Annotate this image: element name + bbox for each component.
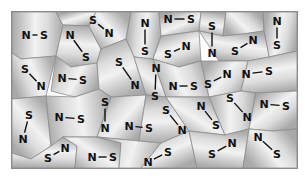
bond-line bbox=[270, 105, 279, 106]
south-pole-label: S bbox=[40, 30, 48, 41]
north-pole-label: N bbox=[104, 28, 113, 39]
south-pole-label: S bbox=[101, 97, 109, 108]
south-pole-label: S bbox=[231, 46, 239, 57]
south-pole-label: S bbox=[226, 93, 234, 104]
bond-line bbox=[98, 24, 104, 29]
north-pole-label: N bbox=[87, 152, 96, 163]
north-pole-label: N bbox=[100, 123, 109, 134]
south-pole-label: S bbox=[82, 52, 90, 63]
bond-line bbox=[205, 111, 212, 120]
north-pole-label: N bbox=[21, 30, 30, 41]
north-pole-label: N bbox=[181, 41, 190, 52]
bond-line bbox=[68, 79, 76, 80]
south-pole-label: S bbox=[208, 149, 216, 160]
south-pole-label: S bbox=[79, 75, 87, 86]
bond-line bbox=[65, 118, 74, 119]
north-pole-label: N bbox=[241, 69, 250, 80]
south-pole-label: S bbox=[187, 14, 195, 25]
bond-line bbox=[54, 151, 60, 154]
south-pole-label: S bbox=[77, 114, 85, 125]
south-pole-label: S bbox=[141, 46, 149, 57]
north-pole-label: N bbox=[177, 125, 186, 136]
south-pole-label: S bbox=[151, 91, 159, 102]
bond-line bbox=[154, 155, 162, 159]
south-pole-label: S bbox=[204, 79, 212, 90]
south-pole-label: S bbox=[115, 57, 123, 68]
south-pole-label: S bbox=[145, 123, 153, 134]
south-pole-label: S bbox=[212, 120, 220, 131]
south-pole-label: S bbox=[162, 105, 170, 116]
north-pole-label: N bbox=[272, 16, 281, 27]
north-pole-label: N bbox=[259, 99, 268, 110]
south-pole-label: S bbox=[190, 81, 198, 92]
south-pole-label: S bbox=[44, 153, 52, 164]
south-pole-label: S bbox=[208, 21, 216, 32]
bond-line bbox=[135, 127, 142, 128]
south-pole-label: S bbox=[282, 101, 290, 112]
south-pole-label: S bbox=[89, 15, 97, 26]
north-pole-label: N bbox=[151, 63, 160, 74]
north-pole-label: N bbox=[248, 35, 257, 46]
south-pole-label: S bbox=[164, 49, 172, 60]
south-pole-label: S bbox=[164, 147, 172, 158]
bond-line bbox=[263, 141, 272, 149]
north-pole-label: N bbox=[36, 81, 45, 92]
north-pole-label: N bbox=[140, 18, 149, 29]
south-pole-label: S bbox=[265, 66, 273, 77]
bond-line bbox=[25, 121, 28, 132]
north-pole-label: N bbox=[57, 73, 66, 84]
north-pole-label: N bbox=[65, 30, 74, 41]
bond-line bbox=[252, 72, 262, 73]
bond-line bbox=[218, 146, 227, 151]
bond-line bbox=[214, 77, 221, 81]
north-pole-label: N bbox=[124, 121, 133, 132]
bond-line bbox=[155, 74, 156, 89]
north-pole-label: N bbox=[168, 81, 177, 92]
north-pole-label: N bbox=[207, 48, 216, 59]
north-pole-label: N bbox=[222, 69, 231, 80]
north-pole-label: N bbox=[54, 112, 63, 123]
south-pole-label: S bbox=[109, 152, 117, 163]
north-pole-label: N bbox=[60, 143, 69, 154]
south-pole-label: S bbox=[273, 40, 281, 51]
grain-diagram: NSNSSNNSNSSNSNNSSNNSSNNSSNNSSNNSSNNSSNNS… bbox=[11, 11, 298, 169]
south-pole-label: S bbox=[273, 149, 281, 160]
north-pole-label: N bbox=[143, 157, 152, 168]
north-pole-label: N bbox=[163, 14, 172, 25]
south-pole-label: S bbox=[21, 64, 29, 75]
south-pole-label: S bbox=[25, 110, 33, 121]
bond-line bbox=[174, 49, 180, 52]
bond-line bbox=[241, 43, 248, 47]
north-pole-label: N bbox=[242, 112, 251, 123]
north-pole-label: N bbox=[130, 80, 139, 91]
north-pole-label: N bbox=[18, 134, 27, 145]
north-pole-label: N bbox=[196, 101, 205, 112]
north-pole-label: N bbox=[253, 132, 262, 143]
bond-line bbox=[74, 40, 82, 51]
north-pole-label: N bbox=[227, 138, 236, 149]
